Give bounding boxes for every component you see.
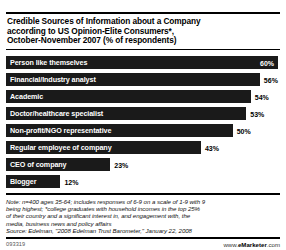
bar-value-label: 60% bbox=[260, 59, 274, 66]
bar: Financial/Industry analyst bbox=[6, 73, 260, 87]
bar-row: Person like themselves60% bbox=[6, 55, 280, 71]
bar-category-label: Blogger bbox=[6, 177, 36, 186]
bar-row: Financial/Industry analyst56% bbox=[6, 72, 280, 88]
bar-value-label: 56% bbox=[264, 76, 278, 83]
url-prefix: www. bbox=[223, 241, 238, 248]
title-divider bbox=[6, 49, 280, 50]
chart-id: 093319 bbox=[6, 241, 25, 247]
chart-title-line-3: October-November 2007 (% of respondents) bbox=[7, 36, 279, 46]
bar: Person like themselves60% bbox=[6, 56, 278, 70]
bar-row: Academic54% bbox=[6, 89, 280, 105]
chart-title: Credible Sources of Information about a … bbox=[6, 14, 280, 49]
bar-row: Doctor/healthcare specialist53% bbox=[6, 106, 280, 122]
bar-row: Regular employee of company43% bbox=[6, 140, 280, 156]
chart-notes: Note: n=400 ages 35-64; includes respons… bbox=[6, 195, 280, 234]
bar-chart-plot: Person like themselves60%Financial/Indus… bbox=[6, 53, 280, 190]
bar-value-label: 23% bbox=[114, 161, 128, 168]
bar-category-label: Financial/Industry analyst bbox=[6, 75, 96, 84]
note-line-1: Note: n=400 ages 35-64; includes respons… bbox=[6, 198, 280, 205]
chart-card: Credible Sources of Information about a … bbox=[0, 12, 286, 250]
bar-value-label: 43% bbox=[205, 144, 219, 151]
bar-value-label: 53% bbox=[250, 110, 264, 117]
bar-row: CEO of company23% bbox=[6, 157, 280, 173]
emarketer-url: www.eMarketer.com bbox=[223, 241, 280, 248]
bar-value-label: 54% bbox=[255, 93, 269, 100]
url-brand: eMarketer bbox=[238, 241, 267, 248]
chart-source: Source: Edelman, "2008 Edelman Trust Bar… bbox=[6, 227, 280, 234]
bar: CEO of company bbox=[6, 158, 110, 172]
note-line-4: media, business news and policy affairs bbox=[6, 220, 280, 227]
bar-row: Non-profit/NGO representative50% bbox=[6, 123, 280, 139]
url-suffix: .com bbox=[267, 241, 280, 248]
chart-footer: 093319 www.eMarketer.com bbox=[6, 239, 280, 248]
bar-row: Blogger12% bbox=[6, 174, 280, 190]
bar-category-label: Doctor/healthcare specialist bbox=[6, 109, 103, 118]
bar: Academic bbox=[6, 90, 251, 104]
note-line-3: of their country and a significant inter… bbox=[6, 212, 280, 219]
bar: Regular employee of company bbox=[6, 141, 201, 155]
bar-category-label: Non-profit/NGO representative bbox=[6, 126, 111, 135]
bar: Blogger bbox=[6, 175, 60, 189]
bar-category-label: Regular employee of company bbox=[6, 143, 112, 152]
bar: Non-profit/NGO representative bbox=[6, 124, 233, 138]
note-line-2: being highest; *college graduates with h… bbox=[6, 205, 280, 212]
bar-category-label: Person like themselves bbox=[6, 58, 87, 67]
bar-value-label: 12% bbox=[64, 178, 78, 185]
bar-category-label: Academic bbox=[6, 92, 43, 101]
bar: Doctor/healthcare specialist bbox=[6, 107, 246, 121]
bar-category-label: CEO of company bbox=[6, 160, 67, 169]
bar-value-label: 50% bbox=[237, 127, 251, 134]
